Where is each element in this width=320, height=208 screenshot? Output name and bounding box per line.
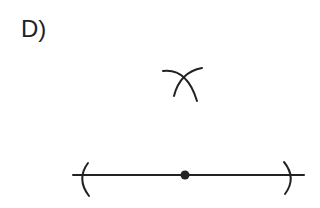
construction-diagram (0, 0, 320, 208)
upper-arc-left (163, 71, 197, 101)
right-arc (284, 162, 291, 194)
midpoint-dot (181, 171, 190, 180)
left-arc (82, 163, 89, 196)
